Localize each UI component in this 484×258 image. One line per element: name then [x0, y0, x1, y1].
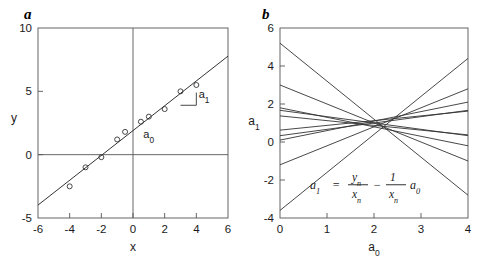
y-tick-label: -4 [264, 212, 275, 224]
x-tick-label: 2 [161, 223, 167, 235]
data-point [67, 184, 72, 189]
y-tick-label: 0 [26, 149, 32, 161]
constraint-line [280, 43, 468, 195]
x-axis-title: x [130, 240, 136, 254]
x-tick-label: 0 [130, 223, 136, 235]
x-tick-label: 4 [193, 223, 200, 235]
panel-a-plot: -6-4-20246-50510a0a1xy [0, 0, 242, 258]
x-tick-label: 3 [418, 223, 424, 235]
data-point [123, 129, 128, 134]
y-tick-label: 10 [19, 22, 32, 34]
panel-a: a -6-4-20246-50510a0a1xy [0, 0, 242, 258]
svg-text:=: = [332, 178, 340, 192]
y-tick-label: 0 [268, 136, 274, 148]
x-tick-label: 1 [324, 223, 330, 235]
x-tick-label: -2 [96, 223, 106, 235]
svg-text:−: − [373, 178, 381, 192]
intercept-annotation: a0 [143, 128, 154, 145]
x-tick-label: 2 [371, 223, 377, 235]
data-point [115, 137, 120, 142]
y-tick-label: 5 [26, 85, 32, 97]
slope-annotation: a1 [199, 88, 210, 105]
y-axis-title: a1 [248, 114, 260, 132]
panel-b-plot: 01234-4-20246a1=ynxn−1xna0a0a1 [242, 0, 484, 258]
y-tick-label: 2 [268, 98, 274, 110]
x-tick-label: 4 [465, 223, 472, 235]
svg-text:a0: a0 [410, 178, 421, 196]
data-point [194, 83, 199, 88]
data-point [138, 119, 143, 124]
y-tick-label: 4 [268, 60, 275, 72]
svg-text:xn: xn [351, 188, 361, 205]
figure-container: a -6-4-20246-50510a0a1xy b 01234-4-20246… [0, 0, 484, 258]
y-tick-label: -2 [264, 174, 274, 186]
x-tick-label: 6 [225, 223, 231, 235]
panel-b: b 01234-4-20246a1=ynxn−1xna0a0a1 [242, 0, 484, 258]
data-point [162, 107, 167, 112]
svg-text:xn: xn [388, 188, 398, 205]
x-axis-title: a0 [368, 240, 380, 258]
x-tick-label: -4 [65, 223, 76, 235]
y-tick-label: 6 [268, 22, 274, 34]
constraint-line [280, 108, 468, 146]
y-tick-label: -5 [22, 212, 32, 224]
x-tick-label: 0 [277, 223, 283, 235]
svg-text:a1: a1 [310, 178, 320, 196]
svg-text:1: 1 [390, 171, 396, 183]
equation-annotation: a1=ynxn−1xna0 [310, 171, 421, 205]
y-axis-title: y [11, 111, 17, 125]
x-tick-label: -6 [33, 223, 43, 235]
